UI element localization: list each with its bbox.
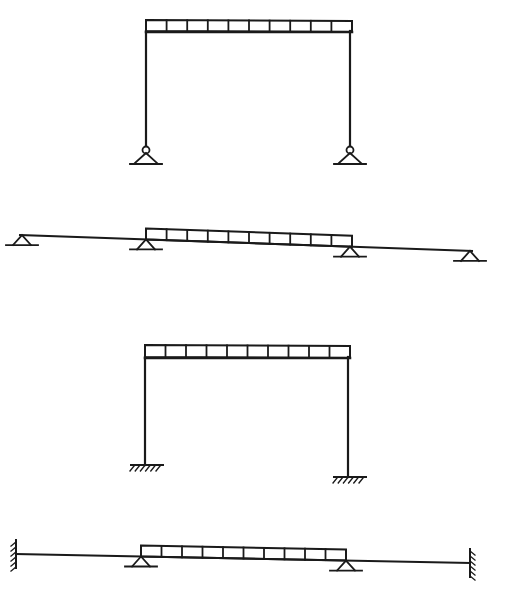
hatch-mark xyxy=(359,478,363,483)
hatch-mark xyxy=(135,466,139,471)
structural-diagrams-canvas xyxy=(0,0,511,593)
pinned-continuous-beam xyxy=(6,228,486,260)
fixed-end-continuous-beam xyxy=(11,540,475,580)
fixed-support-icon xyxy=(333,477,366,483)
support-triangle xyxy=(135,153,157,163)
hatch-mark xyxy=(333,478,337,483)
distributed-load xyxy=(145,345,350,358)
pin-support-icon xyxy=(130,147,162,165)
hatch-mark xyxy=(140,466,144,471)
hatch-mark xyxy=(156,466,160,471)
pin-support-icon xyxy=(334,147,366,165)
pin-support-icon xyxy=(334,247,366,257)
fixed-support-icon xyxy=(130,465,163,471)
fixed-wall-icon xyxy=(11,540,16,571)
pin-support-icon xyxy=(330,561,362,571)
support-triangle xyxy=(13,235,31,245)
hatch-mark xyxy=(343,478,347,483)
hatch-mark xyxy=(338,478,342,483)
fixed-portal-frame xyxy=(130,345,366,483)
support-triangle xyxy=(461,251,479,261)
hatch-mark xyxy=(151,466,155,471)
distributed-load xyxy=(146,20,352,32)
distributed-load xyxy=(141,545,346,560)
distributed-load xyxy=(146,228,352,246)
hatch-mark xyxy=(349,478,353,483)
support-triangle xyxy=(132,556,150,566)
hatch-mark xyxy=(130,466,134,471)
support-triangle xyxy=(337,561,355,571)
support-triangle xyxy=(341,247,359,257)
pin-support-icon xyxy=(6,235,38,245)
pinned-portal-frame xyxy=(130,20,366,164)
fixed-wall-icon xyxy=(470,549,475,580)
support-triangle xyxy=(339,153,361,163)
pin-support-icon xyxy=(125,556,157,566)
pin-support-icon xyxy=(454,251,486,261)
pin-support-icon xyxy=(130,239,162,249)
hatch-mark xyxy=(354,478,358,483)
hatch-mark xyxy=(146,466,150,471)
support-triangle xyxy=(137,239,155,249)
